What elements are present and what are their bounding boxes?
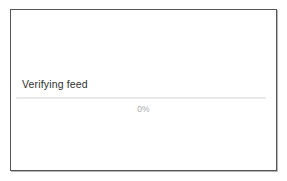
screen-root: Verifying feed 0% (0, 0, 287, 181)
progress-bar-track (16, 97, 266, 99)
status-label: Verifying feed (22, 78, 276, 91)
progress-percent-label: 0% (11, 104, 276, 114)
progress-block: Verifying feed 0% (11, 78, 276, 114)
progress-dialog: Verifying feed 0% (10, 9, 277, 171)
